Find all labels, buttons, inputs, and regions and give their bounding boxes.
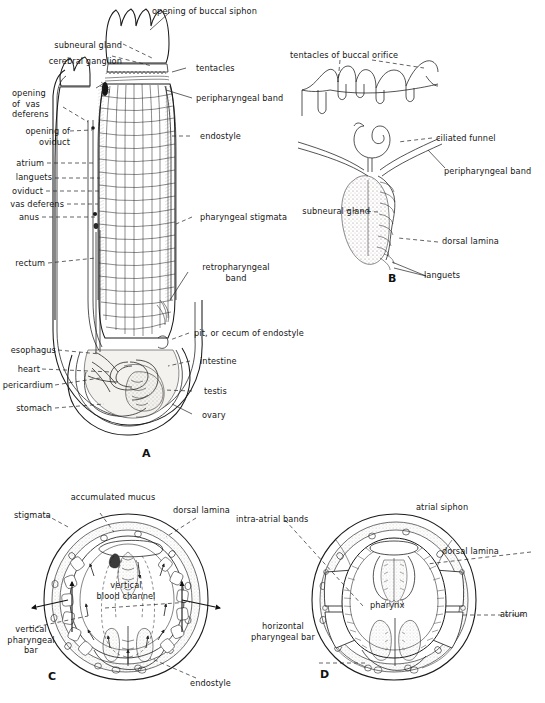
label-opening-of-vas-deferens: opening of vas deferens xyxy=(12,88,49,120)
label-stomach: stomach xyxy=(0,403,52,414)
label-dorsal-lamina-b: dorsal lamina xyxy=(442,236,499,247)
label-pit-or-cecum-of-endostyle: pit, or cecum of endostyle xyxy=(194,328,304,339)
label-accumulated-mucus: accumulated mucus xyxy=(58,492,168,503)
label-anus: anus xyxy=(0,212,39,223)
label-pharynx: pharynx xyxy=(370,600,404,611)
label-dorsal-lamina-d: dorsal lamina xyxy=(442,546,499,557)
figure-plate: opening of buccal siphon subneural gland… xyxy=(0,0,545,703)
label-esophagus: esophagus xyxy=(0,345,56,356)
label-stigmata: stigmata xyxy=(14,510,51,521)
label-languets-b: languets xyxy=(424,270,460,281)
label-heart: heart xyxy=(0,364,40,375)
label-oviduct: oviduct xyxy=(0,186,43,197)
panel-letter-d: D xyxy=(320,668,329,681)
label-pericardium: pericardium xyxy=(0,380,53,391)
panel-b-leaders xyxy=(280,30,545,280)
label-peripharyngeal-band-a: peripharyngeal band xyxy=(196,93,283,104)
label-intra-atrial-bands: intra-atrial bands xyxy=(236,514,308,525)
label-atrium-d: atrium xyxy=(500,609,528,620)
label-horizontal-pharyngeal-bar: horizontal pharyngeal bar xyxy=(240,621,326,642)
label-vas-deferens: vas deferens xyxy=(0,199,64,210)
label-testis: testis xyxy=(204,386,227,397)
label-ciliated-funnel: ciliated funnel xyxy=(436,133,496,144)
label-rectum: rectum xyxy=(0,258,45,269)
panel-a-leaders xyxy=(0,0,280,470)
label-dorsal-lamina-c: dorsal lamina xyxy=(173,505,230,516)
label-peripharyngeal-band-b: peripharyngeal band xyxy=(444,166,531,177)
label-opening-of-buccal-siphon: opening of buccal siphon xyxy=(152,6,257,17)
label-atrium: atrium xyxy=(0,158,44,169)
panel-letter-c: C xyxy=(48,670,56,683)
label-retropharyngeal-band: retropharyngeal band xyxy=(196,262,276,283)
panel-letter-a: A xyxy=(142,447,151,460)
label-tentacles: tentacles xyxy=(196,63,235,74)
label-ovary: ovary xyxy=(202,410,226,421)
panel-letter-b: B xyxy=(388,272,396,285)
label-subneural-gland: subneural gland xyxy=(20,40,122,51)
label-vertical-pharyngeal-bar: vertical pharyngeal bar xyxy=(0,624,62,656)
label-languets: languets xyxy=(0,172,52,183)
label-endostyle-c: endostyle xyxy=(190,678,231,689)
label-tentacles-of-buccal-orifice: tentacles of buccal orifice xyxy=(290,50,398,61)
label-vertical-blood-channel: vertical blood channel xyxy=(78,580,174,601)
label-atrial-siphon: atrial siphon xyxy=(416,502,468,513)
label-intestine: intestine xyxy=(200,356,237,367)
label-endostyle-a: endostyle xyxy=(200,131,241,142)
label-cerebral-ganglion: cerebral ganglion xyxy=(8,56,122,67)
label-subneural-gland-b: subneural gland xyxy=(272,206,370,217)
label-opening-of-oviduct: opening of oviduct xyxy=(0,126,70,147)
figure-caption xyxy=(28,692,528,703)
